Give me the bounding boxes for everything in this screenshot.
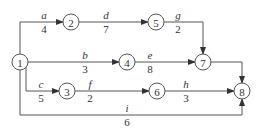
activity-label: e	[148, 49, 153, 61]
node-1: 1	[12, 54, 28, 70]
node-6: 6	[149, 83, 165, 99]
duration-label: 5	[38, 92, 44, 104]
duration-label: 2	[175, 23, 181, 35]
node-5: 5	[148, 14, 164, 30]
duration-label: 3	[183, 92, 189, 104]
activity-label: f	[88, 78, 93, 90]
duration-label: 4	[41, 23, 47, 35]
edge-5-7	[164, 22, 203, 54]
activity-network-diagram: a4d7g2b3e8c5f2h3i6 12345678	[0, 0, 262, 134]
node-4: 4	[119, 54, 135, 70]
duration-label: 3	[82, 63, 88, 75]
duration-label: 2	[87, 92, 93, 104]
activity-label: c	[39, 78, 44, 90]
node-label: 4	[124, 57, 130, 69]
node-2: 2	[63, 14, 79, 30]
activity-label: i	[125, 102, 128, 114]
node-label: 2	[68, 17, 74, 29]
node-8: 8	[234, 83, 250, 99]
duration-label: 7	[103, 23, 109, 35]
activity-label: a	[41, 9, 47, 21]
node-3: 3	[59, 83, 75, 99]
edge-1-8	[20, 70, 242, 115]
node-label: 1	[17, 57, 23, 69]
activity-label: g	[175, 9, 181, 21]
activity-label: h	[183, 78, 189, 90]
node-label: 5	[153, 17, 159, 29]
duration-label: 6	[124, 116, 130, 128]
node-label: 8	[239, 86, 245, 98]
node-7: 7	[195, 54, 211, 70]
node-label: 6	[154, 86, 160, 98]
node-label: 3	[64, 86, 70, 98]
activity-label: b	[82, 49, 88, 61]
edge-7-8	[211, 62, 242, 83]
node-label: 7	[200, 57, 206, 69]
duration-label: 8	[147, 63, 153, 75]
activity-label: d	[103, 9, 109, 21]
